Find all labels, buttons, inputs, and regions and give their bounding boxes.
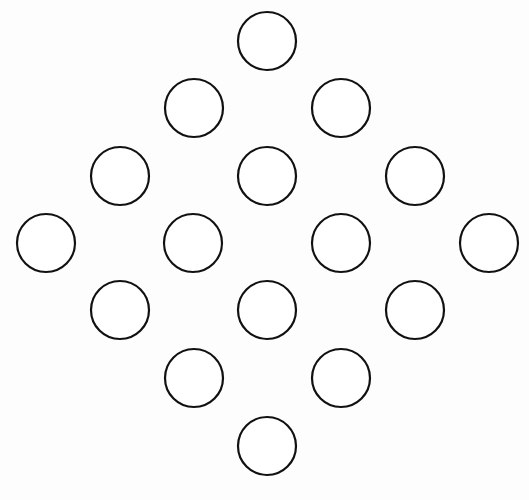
- circle-7: [164, 214, 222, 272]
- circle-9: [460, 214, 518, 272]
- circle-4: [238, 147, 296, 205]
- circle-diamond-diagram: [0, 0, 529, 500]
- circle-10: [91, 281, 149, 339]
- circle-14: [312, 349, 370, 407]
- circle-11: [238, 281, 296, 339]
- circle-13: [165, 349, 223, 407]
- circle-5: [386, 147, 444, 205]
- circle-2: [312, 79, 370, 137]
- circle-1: [165, 79, 223, 137]
- circle-6: [17, 214, 75, 272]
- circle-8: [312, 214, 370, 272]
- circle-12: [386, 281, 444, 339]
- circle-3: [91, 147, 149, 205]
- circle-15: [238, 417, 296, 475]
- circle-0: [238, 12, 296, 70]
